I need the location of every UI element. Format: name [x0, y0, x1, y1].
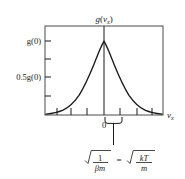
chart-svg: g(vx) g(0) 0.5g(0) vx 0 1 [0, 0, 185, 179]
lhs-denominator: βm [94, 163, 105, 173]
y-label-peak: g(0) [27, 36, 41, 46]
x-axis-label: vx [167, 110, 174, 121]
y-label-half-max: 0.5g(0) [16, 72, 41, 82]
sigma-brace [105, 117, 122, 127]
equals-sign: = [116, 155, 121, 165]
rhs-numerator: kT [140, 153, 150, 163]
y-axis-ticks [45, 41, 51, 96]
chart-title-text: g(vx) [95, 14, 112, 25]
chart-title: g(vx) [95, 14, 112, 25]
gaussian-distribution-figure: g(vx) g(0) 0.5g(0) vx 0 1 [0, 0, 185, 179]
lhs-numerator: 1 [98, 153, 102, 163]
sigma-formula: 1 βm = kT m [85, 151, 155, 174]
rhs-denominator: m [141, 163, 147, 173]
